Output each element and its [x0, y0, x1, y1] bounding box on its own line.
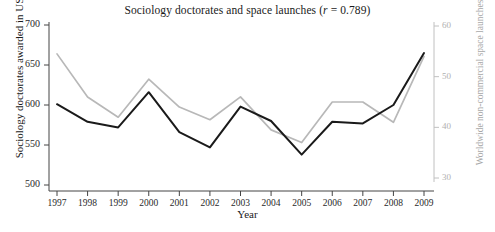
x-axis-tick-label: 2007 [348, 198, 378, 208]
x-axis-tick-label: 1999 [103, 198, 133, 208]
x-axis-tick-label: 2002 [195, 198, 225, 208]
y-axis-left-tick-label: 650 [12, 58, 40, 69]
y-axis-left-tick-label: 550 [12, 138, 40, 149]
x-axis-tick-label: 1997 [42, 198, 72, 208]
x-axis-tick-label: 2009 [409, 198, 439, 208]
x-axis-tick-label: 2005 [287, 198, 317, 208]
series-line-sociology-doctorates [57, 53, 424, 155]
y-axis-right-tick-label: 40 [442, 121, 451, 131]
y-axis-left-tick-label: 700 [12, 18, 40, 29]
y-axis-left-tick-label: 600 [12, 98, 40, 109]
x-axis-tick-label: 2001 [164, 198, 194, 208]
x-axis-tick-label: 2004 [256, 198, 286, 208]
axes-group [44, 22, 439, 196]
series-group [57, 53, 424, 155]
x-axis-tick-label: 2008 [378, 198, 408, 208]
x-axis-tick-label: 2003 [226, 198, 256, 208]
x-axis-tick-label: 2006 [317, 198, 347, 208]
y-axis-right-tick-label: 30 [442, 172, 451, 182]
x-axis-tick-label: 2000 [134, 198, 164, 208]
x-axis-tick-label: 1998 [73, 198, 103, 208]
y-axis-right-tick-label: 60 [442, 20, 451, 30]
y-axis-left-tick-label: 500 [12, 178, 40, 189]
chart-container: Sociology doctorates and space launches … [0, 0, 495, 232]
y-axis-right-tick-label: 50 [442, 71, 451, 81]
series-line-space-launches [57, 54, 424, 143]
